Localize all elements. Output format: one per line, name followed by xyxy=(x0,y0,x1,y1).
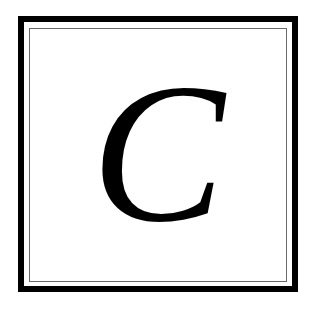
letter-c-glyph: C xyxy=(24,22,292,286)
letter-frame: C xyxy=(18,16,298,292)
